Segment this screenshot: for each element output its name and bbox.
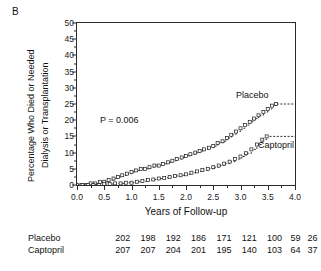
figure-panel-b: B 05101520253035404550 Percentage Who Di… (0, 0, 321, 271)
data-marker (144, 167, 147, 170)
risk-value: 100 (262, 232, 287, 244)
data-marker (92, 184, 95, 186)
numbers-at-risk-table: Placebo2021981921861711211005926Captopri… (0, 232, 321, 256)
y-axis-title-line2: Dialysis or Transplantation (40, 62, 51, 168)
data-marker (253, 117, 256, 120)
data-marker (207, 146, 210, 149)
data-marker (239, 127, 242, 130)
data-marker (266, 107, 269, 110)
x-tick-minor (281, 186, 282, 188)
data-marker (152, 178, 155, 181)
data-marker (202, 148, 205, 151)
data-marker (139, 167, 142, 170)
p-value-annotation: P = 0.006 (100, 115, 139, 125)
x-tick-label-2.5: 2.5 (207, 192, 219, 202)
data-marker (180, 156, 183, 159)
data-marker (201, 169, 204, 172)
x-tick-label-2.0: 2.0 (180, 192, 192, 202)
data-marker (162, 162, 165, 165)
series-label-captopril: Captopril (258, 140, 294, 150)
data-marker (168, 175, 171, 178)
data-marker (262, 111, 265, 114)
x-tick-mark-0.5 (104, 186, 105, 190)
data-marker (206, 167, 209, 170)
data-marker (265, 135, 268, 138)
data-marker (107, 179, 110, 182)
x-tick-minor (227, 186, 228, 188)
x-tick-minor (254, 186, 255, 188)
data-marker (157, 164, 160, 167)
x-tick-mark-2.5 (213, 186, 214, 190)
data-marker (134, 169, 137, 172)
data-marker (171, 159, 174, 162)
x-tick-mark-1.0 (132, 186, 133, 190)
data-marker (130, 181, 133, 184)
data-marker (121, 174, 124, 177)
data-marker (257, 114, 260, 117)
risk-value: 26 (304, 232, 321, 244)
y-axis-title-line1: Percentage Who Died or Needed (26, 49, 37, 182)
risk-value: 103 (262, 244, 287, 256)
risk-value: 121 (237, 232, 262, 244)
risk-row-label-placebo: Placebo (0, 232, 110, 244)
x-tick-label-3.0: 3.0 (235, 192, 247, 202)
table-row: Captopril2072072042011951401036437 (0, 244, 321, 256)
data-marker (179, 174, 182, 177)
x-axis-title: Years of Follow-up (76, 206, 296, 217)
x-axis-tick-marks (76, 186, 296, 191)
x-tick-mark-1.5 (159, 186, 160, 190)
data-marker (274, 103, 277, 106)
data-marker (153, 164, 156, 167)
x-tick-mark-4.0 (295, 186, 296, 190)
data-marker (97, 184, 100, 186)
origin-marker (77, 183, 79, 185)
data-marker (225, 137, 228, 140)
data-marker (167, 161, 170, 164)
data-marker (230, 133, 233, 136)
data-marker (190, 171, 193, 174)
data-marker (112, 177, 115, 180)
x-axis-tick-labels: 0.00.51.01.52.02.53.03.54.0 (76, 192, 296, 204)
x-tick-label-4.0: 4.0 (289, 192, 301, 202)
data-marker (189, 153, 192, 156)
data-marker (228, 160, 231, 163)
x-tick-minor (172, 186, 173, 188)
data-marker (86, 184, 89, 186)
data-marker (148, 166, 151, 169)
risk-row-label-captopril: Captopril (0, 244, 110, 256)
x-tick-minor (91, 186, 92, 188)
data-marker (217, 164, 220, 167)
series-label-placebo: Placebo (236, 90, 269, 100)
survival-curves (77, 23, 295, 185)
data-marker (243, 124, 246, 127)
risk-value: 140 (237, 244, 262, 256)
data-marker (174, 174, 177, 177)
data-marker (234, 158, 237, 161)
data-marker (119, 182, 122, 185)
table-row: Placebo2021981921861711211005926 (0, 232, 321, 244)
data-marker (157, 177, 160, 180)
risk-value: 59 (287, 232, 304, 244)
data-marker (216, 141, 219, 144)
risk-value: 186 (186, 232, 211, 244)
panel-label: B (12, 6, 19, 17)
data-marker (175, 158, 178, 161)
risk-value: 204 (161, 244, 186, 256)
data-marker (195, 170, 198, 173)
risk-value: 202 (110, 232, 135, 244)
data-marker (212, 145, 215, 148)
data-marker (223, 162, 226, 165)
x-tick-mark-2.0 (186, 186, 187, 190)
data-marker (103, 183, 106, 185)
risk-table-element: Placebo2021981921861711211005926Captopri… (0, 232, 321, 256)
risk-value: 195 (211, 244, 236, 256)
data-marker (194, 151, 197, 154)
risk-value: 207 (110, 244, 135, 256)
data-marker (271, 104, 274, 107)
data-marker (185, 154, 188, 157)
plot-area (76, 22, 296, 186)
data-marker (248, 120, 251, 123)
risk-value: 207 (135, 244, 160, 256)
data-marker (116, 175, 119, 178)
x-tick-label-0.0: 0.0 (71, 192, 83, 202)
